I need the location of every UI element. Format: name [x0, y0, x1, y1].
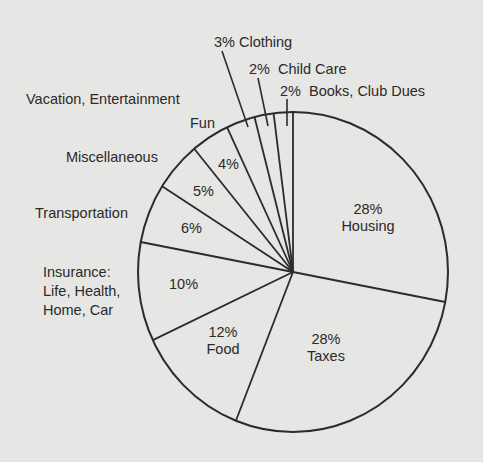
label-taxes-name: Taxes	[303, 348, 349, 365]
label-books-pct: 2%	[280, 83, 301, 99]
label-vacation-pct: 4%	[218, 156, 239, 173]
label-housing: 28% Housing	[335, 201, 401, 235]
label-taxes: 28% Taxes	[303, 331, 349, 365]
label-childcare-pct: 2%	[249, 61, 270, 77]
label-taxes-pct: 28%	[303, 331, 349, 348]
label-food-pct: 12%	[203, 324, 243, 341]
label-books-name: Books, Club Dues	[309, 83, 425, 99]
label-insurance-2: Life, Health,	[43, 283, 120, 300]
label-childcare-name: Child Care	[278, 61, 347, 77]
label-insurance-1: Insurance:	[43, 264, 111, 281]
label-housing-pct: 28%	[335, 201, 401, 218]
label-insurance-3: Home, Car	[43, 302, 113, 319]
label-transportation: Transportation	[35, 205, 128, 222]
label-food-name: Food	[203, 341, 243, 358]
label-housing-name: Housing	[335, 218, 401, 235]
label-insurance-pct: 10%	[169, 276, 198, 293]
pie-slices	[138, 112, 448, 432]
label-vacation-fun: Fun	[190, 115, 215, 132]
label-misc: Miscellaneous	[66, 149, 158, 166]
label-misc-pct: 5%	[193, 183, 214, 200]
pie-chart	[0, 0, 483, 462]
label-books: 2% Books, Club Dues	[280, 83, 425, 100]
label-food: 12% Food	[203, 324, 243, 358]
label-childcare: 2% Child Care	[249, 61, 347, 78]
label-clothing: 3% Clothing	[214, 34, 292, 51]
leader-line-clothing	[222, 51, 248, 127]
label-transportation-pct: 6%	[181, 220, 202, 237]
label-vacation: Vacation, Entertainment	[26, 91, 180, 108]
